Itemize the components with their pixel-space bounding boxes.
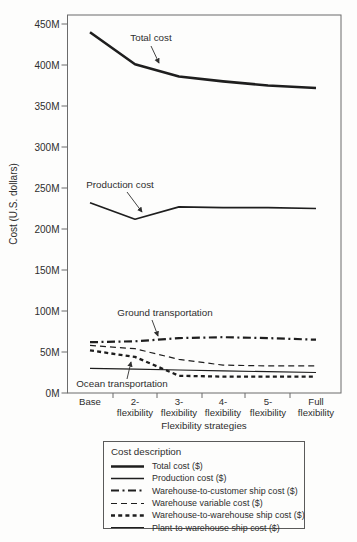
- y-tick-label: 200M: [34, 224, 59, 235]
- annotation-ocean-transportation: Ocean transportation: [76, 378, 168, 389]
- y-tick-label: 150M: [34, 265, 59, 276]
- legend-line-sample-warehouse-to-warehouse-ship-cost: [111, 512, 144, 519]
- annotation-production-cost: Production cost: [86, 179, 154, 190]
- x-tick-label: 5-: [264, 396, 273, 407]
- x-tick-label: flexibility: [250, 407, 286, 418]
- x-tick-label: flexibility: [117, 407, 153, 418]
- legend-item-label: Total cost ($): [152, 461, 203, 471]
- x-tick-label: flexibility: [205, 407, 241, 418]
- legend-line-sample-total-cost: [111, 463, 144, 470]
- series-line-plant-to-warehouse-ship-cost: [90, 368, 316, 372]
- legend-item-label: Warehouse variable cost ($): [152, 498, 263, 508]
- legend-item: Plant-to-warehouse ship cost ($): [111, 521, 302, 533]
- x-tick-label: Full: [308, 396, 323, 407]
- y-tick-label: 450M: [34, 19, 59, 30]
- series-line-total-cost: [90, 32, 316, 88]
- y-tick-label: 100M: [34, 306, 59, 317]
- y-axis-title: Cost (U.S. dollars): [8, 163, 19, 245]
- x-tick-label: 2-: [131, 396, 140, 407]
- legend-item-label: Production cost ($): [152, 473, 226, 483]
- annotation-total-cost: Total cost: [130, 32, 172, 43]
- y-tick-label: 400M: [34, 60, 59, 71]
- x-tick-label: 4-: [219, 396, 228, 407]
- y-tick-label: 300M: [34, 142, 59, 153]
- legend-item-label: Warehouse-to-warehouse ship cost ($): [152, 510, 305, 520]
- legend-item: Warehouse-to-warehouse ship cost ($): [111, 509, 302, 521]
- legend-item: Warehouse-to-customer ship cost ($): [111, 485, 302, 497]
- legend-item: Warehouse variable cost ($): [111, 497, 302, 509]
- legend-item-label: Warehouse-to-customer ship cost ($): [152, 486, 298, 496]
- y-tick-label: 0M: [46, 388, 60, 399]
- x-axis-title: Flexibility strategies: [161, 420, 246, 431]
- legend-line-sample-warehouse-to-customer-ship-cost: [111, 487, 144, 494]
- legend-title: Cost description: [111, 446, 302, 457]
- legend-line-sample-production-cost: [111, 475, 144, 482]
- plot-border: [68, 15, 342, 393]
- legend-item: Production cost ($): [111, 472, 302, 484]
- annotation-ground-transportation: Ground transportation: [117, 307, 212, 318]
- legend-items: Total cost ($)Production cost ($)Warehou…: [111, 460, 302, 534]
- annotation-arrow: [151, 46, 159, 63]
- legend-item-label: Plant-to-warehouse ship cost ($): [152, 523, 280, 533]
- series-line-warehouse-to-customer-ship-cost: [90, 337, 316, 342]
- x-tick-label: flexibility: [161, 407, 197, 418]
- annotation-arrow: [152, 320, 158, 336]
- legend-line-sample-plant-to-warehouse-ship-cost: [111, 524, 144, 531]
- x-tick-label: 3-: [175, 396, 184, 407]
- x-tick-label: flexibility: [298, 407, 334, 418]
- cost-flexibility-chart: 450M400M350M300M250M200M150M100M50M0MBas…: [0, 0, 357, 542]
- series-line-warehouse-variable-cost: [90, 345, 316, 366]
- y-tick-label: 350M: [34, 101, 59, 112]
- y-tick-label: 250M: [34, 183, 59, 194]
- series-line-production-cost: [90, 203, 316, 219]
- annotation-arrow: [127, 362, 131, 379]
- x-tick-label: Base: [79, 396, 101, 407]
- y-tick-label: 50M: [40, 347, 59, 358]
- legend-item: Total cost ($): [111, 460, 302, 472]
- annotation-arrow: [127, 192, 142, 212]
- series-line-warehouse-to-warehouse-ship-cost: [90, 350, 316, 376]
- legend-line-sample-warehouse-variable-cost: [111, 500, 144, 507]
- legend: Cost description Total cost ($)Productio…: [103, 441, 305, 529]
